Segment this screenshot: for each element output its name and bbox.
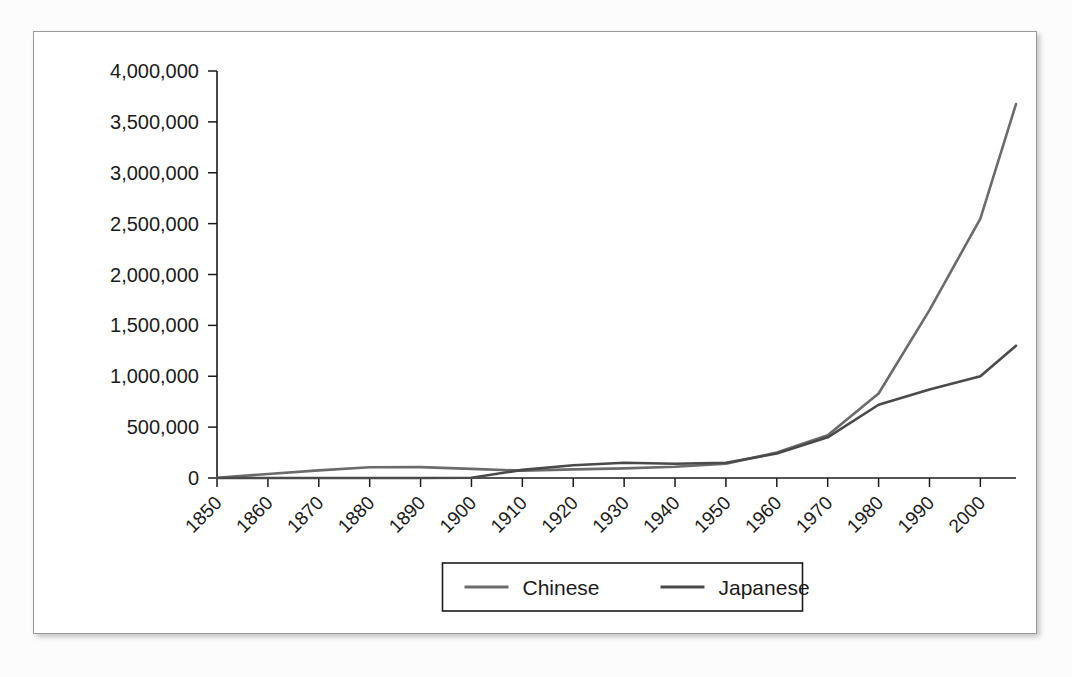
- y-tick-label: 2,000,000: [110, 264, 199, 286]
- x-tick-label: 1990: [894, 492, 939, 537]
- y-tick-label: 1,000,000: [110, 365, 199, 387]
- chart-panel: 0500,0001,000,0001,500,0002,000,0002,500…: [33, 31, 1037, 634]
- x-tick-label: 1900: [436, 492, 481, 537]
- data-series-group: [217, 104, 1016, 478]
- y-axis-tick-marks: [208, 71, 217, 478]
- y-tick-label: 3,500,000: [110, 111, 199, 133]
- y-tick-label: 500,000: [127, 416, 199, 438]
- x-tick-label: 1940: [639, 492, 684, 537]
- legend-label-japanese: Japanese: [719, 576, 810, 599]
- line-chart: 0500,0001,000,0001,500,0002,000,0002,500…: [34, 32, 1036, 633]
- x-tick-label: 1970: [792, 492, 837, 537]
- y-tick-label: 2,500,000: [110, 213, 199, 235]
- chart-legend: ChineseJapanese: [443, 563, 810, 611]
- x-tick-label: 1880: [334, 492, 379, 537]
- x-tick-label: 1920: [537, 492, 582, 537]
- y-tick-label: 3,000,000: [110, 162, 199, 184]
- y-tick-label: 4,000,000: [110, 60, 199, 82]
- x-tick-label: 1980: [843, 492, 888, 537]
- y-axis-tick-labels: 0500,0001,000,0001,500,0002,000,0002,500…: [110, 60, 199, 489]
- x-tick-label: 1910: [486, 492, 531, 537]
- x-tick-label: 2000: [944, 492, 989, 537]
- y-tick-label: 1,500,000: [110, 314, 199, 336]
- x-axis-tick-marks: [217, 478, 980, 487]
- legend-label-chinese: Chinese: [523, 576, 600, 599]
- x-tick-label: 1860: [232, 492, 277, 537]
- x-tick-label: 1850: [181, 492, 226, 537]
- x-tick-label: 1950: [690, 492, 735, 537]
- y-tick-label: 0: [188, 467, 199, 489]
- x-axis-tick-labels: 1850186018701880189019001910192019301940…: [181, 492, 989, 537]
- x-tick-label: 1930: [588, 492, 633, 537]
- page-root: 0500,0001,000,0001,500,0002,000,0002,500…: [0, 0, 1072, 677]
- x-tick-label: 1960: [741, 492, 786, 537]
- x-tick-label: 1890: [385, 492, 430, 537]
- series-line-chinese: [217, 104, 1016, 478]
- x-tick-label: 1870: [283, 492, 328, 537]
